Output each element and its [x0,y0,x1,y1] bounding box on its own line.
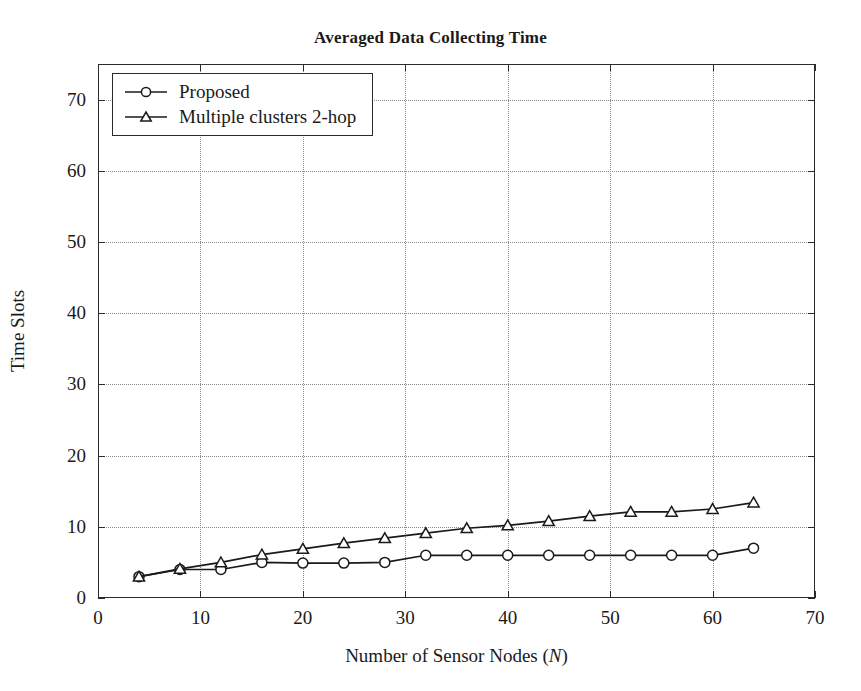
data-series-layer [98,64,815,598]
plot-area: 010203040506070010203040506070 Proposed … [98,64,815,598]
data-point-circle [667,550,677,560]
legend-item-multiple-clusters[interactable]: Multiple clusters 2-hop [123,104,356,129]
x-tick-label: 70 [806,598,825,629]
legend-box: Proposed Multiple clusters 2-hop [112,73,373,136]
x-axis-label-symbol: N [549,645,562,666]
legend-label-proposed: Proposed [179,82,250,101]
chart-title: Averaged Data Collecting Time [0,28,861,48]
data-point-triangle [748,497,759,507]
legend-label-multiple-clusters: Multiple clusters 2-hop [179,107,356,126]
x-tick-label: 0 [93,598,103,629]
y-tick-label: 50 [67,231,98,253]
triangle-marker [123,108,169,126]
x-tick-mark [815,591,816,598]
legend-item-proposed[interactable]: Proposed [123,79,356,104]
data-point-circle [503,550,513,560]
y-tick-label: 70 [67,89,98,111]
data-point-circle [339,558,349,568]
data-point-circle [421,550,431,560]
x-tick-label: 30 [396,598,415,629]
y-tick-label: 20 [67,445,98,467]
x-tick-label: 50 [601,598,620,629]
x-tick-mark [815,64,816,71]
x-axis-label-text: Number of Sensor Nodes ( [345,645,549,666]
y-axis-label: Time Slots [7,290,29,372]
data-point-circle [462,550,472,560]
data-point-circle [749,543,759,553]
x-axis-label: Number of Sensor Nodes (N) [98,645,815,667]
y-tick-label: 30 [67,373,98,395]
x-axis-label-paren: ) [562,645,568,666]
series-circle [134,543,759,581]
series-line [139,503,754,577]
x-tick-label: 40 [498,598,517,629]
data-point-circle [585,550,595,560]
y-tick-label: 60 [67,160,98,182]
data-point-circle [298,558,308,568]
circle-marker [123,83,169,101]
y-tick-label: 10 [67,516,98,538]
x-tick-label: 10 [191,598,210,629]
data-point-circle [544,550,554,560]
data-point-circle [708,550,718,560]
series-line [139,548,754,576]
data-point-circle [626,550,636,560]
x-tick-label: 60 [703,598,722,629]
x-tick-label: 20 [293,598,312,629]
y-tick-label: 40 [67,302,98,324]
chart-figure: Averaged Data Collecting Time Time Slots… [0,0,861,691]
data-point-circle [380,557,390,567]
